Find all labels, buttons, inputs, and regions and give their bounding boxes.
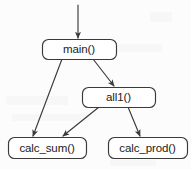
node-box-main[interactable] (43, 40, 117, 60)
node-box-calc_prod[interactable] (109, 138, 188, 159)
edge-main-to-calc_sum (33, 59, 62, 136)
edge-main-to-all1 (93, 59, 114, 86)
node-box-all1[interactable] (83, 88, 156, 108)
nodes-layer (9, 40, 188, 159)
edge-all1-to-calc_prod (128, 107, 140, 136)
diagram-canvas (0, 0, 191, 169)
edges-layer (33, 5, 140, 136)
node-box-calc_sum[interactable] (9, 138, 87, 159)
edge-all1-to-calc_sum (63, 107, 99, 136)
call-graph-diagram: main()all1()calc_sum()calc_prod() (0, 0, 191, 169)
